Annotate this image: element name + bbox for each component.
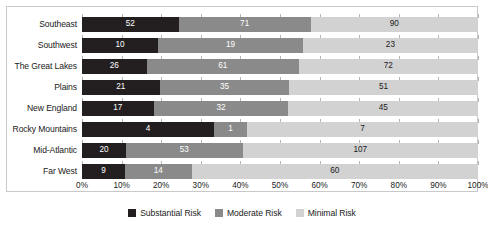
bar-segment-value: 71: [240, 20, 249, 28]
bar-segment: 60: [192, 164, 478, 179]
category-label: The Great Lakes: [6, 62, 82, 71]
legend-item[interactable]: Moderate Risk: [215, 209, 282, 218]
category-label: Mid-Atlantic: [6, 146, 82, 155]
chart-row: Plains213551: [6, 77, 478, 98]
legend-swatch-icon: [215, 209, 223, 217]
bar-track: 527190: [82, 14, 478, 35]
tick-mark: [478, 119, 479, 123]
bar-segment: 14: [125, 164, 192, 179]
tick-mark: [478, 56, 479, 60]
bar-segment: 17: [82, 101, 154, 116]
bar-segment-value: 72: [384, 62, 393, 70]
bar-segment-value: 20: [99, 146, 108, 154]
tick-mark: [478, 35, 479, 39]
bar-segment-value: 51: [379, 83, 388, 91]
chart-row: Far West91460: [6, 161, 478, 182]
tick-mark: [478, 77, 479, 81]
bar-segment-value: 1: [228, 125, 233, 133]
bar-segment: 107: [243, 143, 478, 158]
bar-segment: 45: [288, 101, 478, 116]
category-label: New England: [6, 104, 82, 113]
plot-area: Southeast527190Southwest101923The Great …: [6, 6, 478, 192]
bar-segment: 7: [247, 122, 478, 137]
tick-mark: [478, 14, 479, 18]
legend-item[interactable]: Minimal Risk: [296, 209, 356, 218]
bar-segment: 72: [299, 59, 478, 74]
bar-segment-value: 19: [226, 41, 235, 49]
stacked-bar: 213551: [82, 80, 478, 95]
stacked-bar: 101923: [82, 38, 478, 53]
bar-segment: 52: [82, 17, 179, 32]
bar-segment: 71: [179, 17, 311, 32]
x-axis-tick-label: 0%: [76, 182, 88, 190]
category-label: Far West: [6, 167, 82, 176]
stacked-bar: 2053107: [82, 143, 478, 158]
tick-mark: [478, 140, 479, 144]
chart-row: Mid-Atlantic2053107: [6, 140, 478, 161]
bar-segment: 20: [82, 143, 126, 158]
x-axis-tick-label: 60%: [311, 182, 327, 190]
bar-segment: 35: [160, 80, 290, 95]
bar-segment-value: 61: [218, 62, 227, 70]
bar-track: 2053107: [82, 140, 478, 161]
bar-segment: 19: [158, 38, 303, 53]
x-axis-tick-label: 80%: [391, 182, 407, 190]
bar-segment: 51: [289, 80, 478, 95]
x-axis-tick-label: 70%: [351, 182, 367, 190]
bar-track: 213551: [82, 77, 478, 98]
stacked-bar: 173245: [82, 101, 478, 116]
bar-segment: 26: [82, 59, 147, 74]
bar-segment-value: 9: [101, 167, 106, 175]
bar-segment-value: 7: [360, 125, 365, 133]
chart-row: Rocky Mountains417: [6, 119, 478, 140]
bar-segment-value: 23: [386, 41, 395, 49]
bar-segment-value: 45: [379, 104, 388, 112]
stacked-bar: 91460: [82, 164, 478, 179]
bar-rows: Southeast527190Southwest101923The Great …: [6, 14, 478, 182]
x-axis-tick-label: 30%: [193, 182, 209, 190]
bar-track: 91460: [82, 161, 478, 182]
legend-item[interactable]: Substantial Risk: [128, 209, 201, 218]
stacked-bar: 527190: [82, 17, 478, 32]
tick-mark: [478, 161, 479, 165]
bar-segment-value: 21: [116, 83, 125, 91]
bar-segment-value: 35: [220, 83, 229, 91]
x-axis-tick-label: 50%: [272, 182, 288, 190]
bar-track: 173245: [82, 98, 478, 119]
bar-segment-value: 32: [216, 104, 225, 112]
bar-segment: 53: [126, 143, 243, 158]
x-axis-tick-label: 90%: [430, 182, 446, 190]
bar-track: 417: [82, 119, 478, 140]
bar-segment-value: 4: [146, 125, 151, 133]
bar-segment: 23: [303, 38, 478, 53]
x-axis: 0%10%20%30%40%50%60%70%80%90%100%: [6, 180, 478, 196]
bar-segment-value: 107: [353, 146, 367, 154]
x-axis-tick-label: 20%: [153, 182, 169, 190]
legend-label: Moderate Risk: [227, 209, 282, 218]
legend-swatch-icon: [296, 209, 304, 217]
bar-segment-value: 52: [126, 20, 135, 28]
bar-segment-value: 14: [154, 167, 163, 175]
bar-segment: 9: [82, 164, 125, 179]
bar-segment: 32: [154, 101, 289, 116]
legend-swatch-icon: [128, 209, 136, 217]
chart-row: Southeast527190: [6, 14, 478, 35]
bar-track: 101923: [82, 35, 478, 56]
bar-segment-value: 90: [390, 20, 399, 28]
bar-segment: 10: [82, 38, 158, 53]
x-axis-ticks: 0%10%20%30%40%50%60%70%80%90%100%: [82, 180, 478, 196]
category-label: Plains: [6, 83, 82, 92]
bar-segment-value: 53: [180, 146, 189, 154]
legend-label: Substantial Risk: [140, 209, 201, 218]
bar-segment-value: 10: [116, 41, 125, 49]
stacked-bar: 266172: [82, 59, 478, 74]
bar-segment: 21: [82, 80, 160, 95]
chart-row: Southwest101923: [6, 35, 478, 56]
category-label: Southwest: [6, 41, 82, 50]
x-axis-tick-label: 40%: [232, 182, 248, 190]
chart-row: New England173245: [6, 98, 478, 119]
bar-segment-value: 26: [110, 62, 119, 70]
category-label: Rocky Mountains: [6, 125, 82, 134]
category-label: Southeast: [6, 20, 82, 29]
